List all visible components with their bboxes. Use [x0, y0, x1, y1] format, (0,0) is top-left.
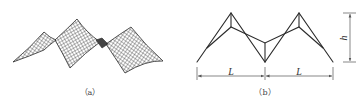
caption-panel-a: （a）: [80, 86, 101, 97]
dimension-lines: [197, 13, 356, 80]
mesh-wing-left: [13, 32, 56, 62]
figure-canvas: [0, 0, 360, 109]
caption-panel-b: （b）: [254, 86, 275, 97]
panel-b-schematic: [197, 13, 333, 62]
mesh-wing-right: [106, 27, 163, 73]
dimension-label-L-left: L: [228, 66, 234, 77]
mesh-diamond-center: [55, 19, 100, 68]
panel-a-mesh-structure: [13, 19, 163, 73]
dimension-label-L-right: L: [296, 66, 302, 77]
dimension-label-h: h: [338, 36, 349, 41]
